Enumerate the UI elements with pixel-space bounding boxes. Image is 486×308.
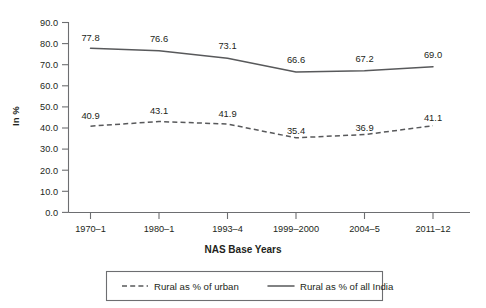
data-label-solid-0: 77.8 (81, 32, 99, 43)
data-label-dashed-4: 36.9 (355, 122, 373, 133)
data-label-solid-1: 76.6 (150, 33, 168, 44)
line-chart: In % 90.0 80.0 70.0 60.0 50.0 40.0 30.0 … (0, 0, 486, 308)
data-label-dashed-5: 41.1 (424, 112, 442, 123)
x-tick-label-1: 1980–1 (144, 224, 175, 234)
data-label-dashed-3: 35.4 (287, 125, 305, 136)
data-label-dashed-0: 40.9 (81, 110, 99, 121)
y-tick-label-80: 80.0 (40, 39, 58, 49)
y-tick-label-40: 40.0 (40, 123, 58, 133)
data-labels-rural-all-india: 77.8 76.6 73.1 66.6 67.2 69.0 (81, 32, 442, 65)
y-axis: 90.0 80.0 70.0 60.0 50.0 40.0 30.0 20.0 … (40, 18, 68, 218)
y-tick-label-10: 10.0 (40, 187, 58, 197)
y-axis-label: In % (10, 106, 21, 126)
series-line-rural-urban (91, 122, 434, 138)
data-label-solid-3: 66.6 (287, 54, 305, 65)
y-tick-label-90: 90.0 (40, 18, 58, 28)
data-label-dashed-1: 43.1 (150, 105, 168, 116)
y-axis-label-text: In % (10, 106, 21, 126)
x-axis: 1970–1 1980–1 1993–4 1999–2000 2004–5 20… (69, 213, 471, 235)
data-label-solid-4: 67.2 (355, 53, 373, 64)
legend-label-rural-all-india: Rural as % of all India (300, 281, 394, 292)
y-tick-label-30: 30.0 (40, 144, 58, 154)
y-tick-label-0: 0.0 (45, 208, 58, 218)
chart-legend: Rural as % of urban Rural as % of all In… (107, 272, 394, 301)
y-tick-label-60: 60.0 (40, 81, 58, 91)
chart-container: In % 90.0 80.0 70.0 60.0 50.0 40.0 30.0 … (0, 0, 486, 308)
x-tick-label-2: 1993–4 (212, 224, 243, 234)
x-axis-label-text: NAS Base Years (204, 244, 282, 255)
y-tick-label-50: 50.0 (40, 102, 58, 112)
data-label-dashed-2: 41.9 (218, 108, 236, 119)
x-tick-label-4: 2004–5 (349, 224, 380, 234)
data-label-solid-5: 69.0 (424, 49, 442, 60)
data-label-solid-2: 73.1 (218, 40, 236, 51)
x-tick-label-5: 2011–12 (415, 224, 450, 234)
legend-label-rural-urban: Rural as % of urban (154, 281, 239, 292)
series-line-rural-all-india (91, 48, 434, 72)
x-tick-label-3: 1999–2000 (273, 224, 319, 234)
y-tick-label-70: 70.0 (40, 60, 58, 70)
y-tick-label-20: 20.0 (40, 166, 58, 176)
x-tick-label-0: 1970–1 (75, 224, 106, 234)
